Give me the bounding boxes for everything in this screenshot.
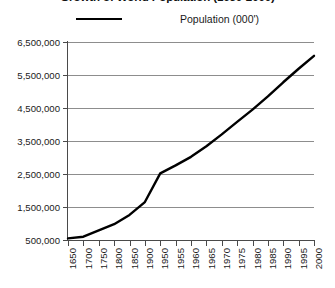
- x-axis-label: 1800: [113, 248, 124, 269]
- population-line-chart: Growth of World Population (1650-2000) P…: [0, 0, 335, 288]
- x-axis-label: 1850: [128, 248, 139, 269]
- x-axis-tick: [314, 240, 315, 246]
- x-axis-label: 1700: [82, 248, 93, 269]
- chart-legend: Population (000'): [0, 13, 335, 25]
- y-axis-label: 1,500,000: [17, 202, 60, 213]
- x-axis-label: 1965: [205, 248, 216, 269]
- x-axis-label: 1990: [282, 248, 293, 269]
- x-axis-label: 1750: [97, 248, 108, 269]
- x-axis-label: 1970: [220, 248, 231, 269]
- x-axis-label: 1975: [236, 248, 247, 269]
- x-axis-line: [67, 240, 314, 241]
- y-axis-label: 5,500,000: [17, 70, 60, 81]
- y-axis-label: 500,000: [25, 235, 60, 246]
- x-axis-label: 1650: [67, 248, 78, 269]
- legend-line-swatch-population: [76, 18, 122, 20]
- series-plot-population: [68, 42, 314, 240]
- y-axis-label: 2,500,000: [17, 169, 60, 180]
- x-axis-label: 1980: [251, 248, 262, 269]
- chart-title: Growth of World Population (1650-2000): [0, 0, 335, 3]
- x-axis-label: 1955: [174, 248, 185, 269]
- plot-area: 500,0001,500,0002,500,0003,500,0004,500,…: [68, 42, 314, 240]
- y-axis-label: 4,500,000: [17, 103, 60, 114]
- x-axis-label: 1960: [190, 248, 201, 269]
- x-axis-label: 1950: [159, 248, 170, 269]
- legend-label-population: Population (000'): [180, 13, 259, 25]
- x-axis-label: 1995: [297, 248, 308, 269]
- x-axis-label: 2000: [313, 248, 324, 269]
- y-axis-label: 6,500,000: [17, 37, 60, 48]
- population-line: [68, 56, 314, 238]
- x-axis-label: 1985: [267, 248, 278, 269]
- y-axis-label: 3,500,000: [17, 136, 60, 147]
- x-axis-label: 1900: [144, 248, 155, 269]
